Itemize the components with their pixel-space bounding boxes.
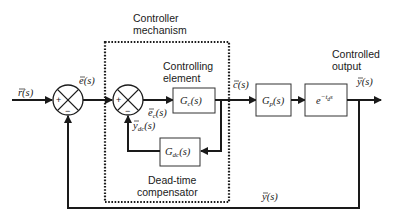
controller-mechanism-label-line2: mechanism [133,24,187,36]
plus-sign: + [116,95,121,105]
minus-sign: − [65,106,70,116]
svg-text:ydc(s): ydc(s) [132,120,156,133]
svg-text:r(s): r(s) [18,87,34,99]
block-diagram: Controller mechanism Controlling element… [0,0,393,220]
dead-time-block: e−tds [305,84,347,116]
compensator-output-label: ydc(s) [132,120,156,133]
controller-mechanism-label-line1: Controller [133,12,179,24]
controlling-element-label-line1: Controlling [163,60,213,72]
controller-error-label: ec(s) [148,107,167,120]
svg-text:y(s): y(s) [356,76,373,88]
plus-sign: + [56,95,61,105]
svg-text:c(s): c(s) [233,79,249,91]
dead-time-compensator-label-line2: compensator [137,186,198,198]
summing-junction-main: + − [53,85,83,116]
controlling-element-label-line2: element [163,72,200,84]
minus-sign: − [125,106,130,116]
controlled-output-label-line2: output [332,60,361,72]
svg-text:y(s): y(s) [261,191,278,203]
dead-time-compensator-label-line1: Dead-time [148,174,197,186]
feedback-signal-label: y(s) [261,191,278,203]
summing-junction-controller: + − [113,85,143,116]
error-signal-label: e(s) [79,75,95,87]
controlled-output-label-line1: Controlled [332,48,380,60]
control-signal-label: c(s) [233,79,249,91]
process-block: Gp(s) [256,84,291,116]
dead-time-compensator-block: Gdc(s) [160,138,200,166]
svg-text:e(s): e(s) [79,75,95,87]
reference-signal-label: r(s) [18,87,34,99]
svg-text:ec(s): ec(s) [148,107,167,120]
output-signal-label: y(s) [356,76,373,88]
controller-block: Gc(s) [173,88,215,113]
